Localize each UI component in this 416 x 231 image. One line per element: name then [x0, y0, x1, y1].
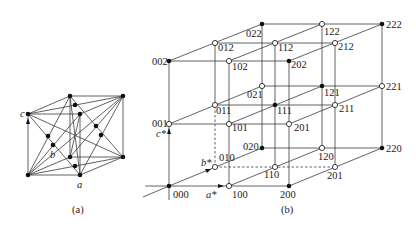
node-label-220: 220: [386, 143, 402, 154]
node-label-020: 020: [243, 141, 259, 152]
node-label-102: 102: [232, 61, 248, 72]
node-label-222: 222: [386, 19, 402, 30]
node-label-201: 201: [294, 122, 310, 133]
node-label-122: 122: [324, 26, 340, 37]
reciprocal-lattice-figure: c b a (a): [0, 0, 416, 231]
node-label-010: 010: [219, 152, 235, 163]
axis-label-b-star: b*: [201, 157, 212, 168]
node-label-022: 022: [246, 28, 262, 39]
panel-a-caption: (a): [72, 204, 84, 216]
node-label-120: 120: [318, 151, 334, 162]
axis-label-c: c: [20, 108, 25, 119]
axis-label-c-star: c*: [156, 128, 167, 139]
node-label-202: 202: [291, 59, 307, 70]
node-label-101: 101: [232, 122, 248, 133]
axis-label-a: a: [77, 179, 82, 190]
node-label-110: 110: [264, 169, 279, 180]
node-label-011: 011: [216, 105, 231, 116]
panel-b-node-labels: 000 100 200 010 020 110 120 220 201 001 …: [152, 19, 402, 200]
panel-a-lattice: [26, 94, 126, 178]
panel-b-caption: (b): [281, 204, 294, 216]
node-label-121: 121: [324, 87, 340, 98]
node-label-000: 000: [173, 189, 189, 200]
node-label-112: 112: [278, 42, 293, 53]
node-label-002: 002: [152, 56, 168, 67]
node-label-012: 012: [218, 42, 234, 53]
axis-label-b: b: [50, 149, 55, 160]
axis-label-a-star: a*: [206, 189, 217, 200]
node-label-111: 111: [277, 105, 292, 116]
node-label-100: 100: [232, 189, 248, 200]
node-label-211: 211: [339, 103, 354, 114]
node-label-221: 221: [386, 81, 402, 92]
node-label-021: 021: [247, 89, 263, 100]
node-label-212: 212: [338, 41, 354, 52]
node-label-200: 200: [280, 189, 296, 200]
node-label-201-lower: 201: [327, 170, 343, 181]
